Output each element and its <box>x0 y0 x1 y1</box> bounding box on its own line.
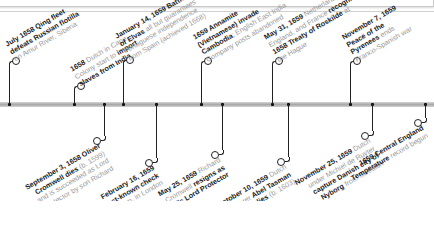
event-connector-line <box>372 104 373 131</box>
event-connector-line <box>222 104 223 150</box>
event-connector-line <box>156 104 157 158</box>
connector-elbow <box>369 131 374 136</box>
event-connector-line <box>9 65 10 104</box>
event-connector-line <box>123 64 124 104</box>
event-connector-line <box>104 104 105 136</box>
event-connector-line <box>201 65 202 104</box>
connector-elbow <box>422 118 427 123</box>
connector-elbow <box>153 158 158 163</box>
timeline-axis <box>0 102 434 107</box>
event-connector-line <box>272 65 273 104</box>
connector-elbow <box>219 150 224 155</box>
connector-elbow <box>285 157 290 162</box>
event-connector-line <box>350 65 351 104</box>
event-connector-line <box>288 104 289 157</box>
event-connector-line <box>74 90 75 104</box>
event-connector-line <box>425 104 426 118</box>
connector-elbow <box>101 136 106 141</box>
